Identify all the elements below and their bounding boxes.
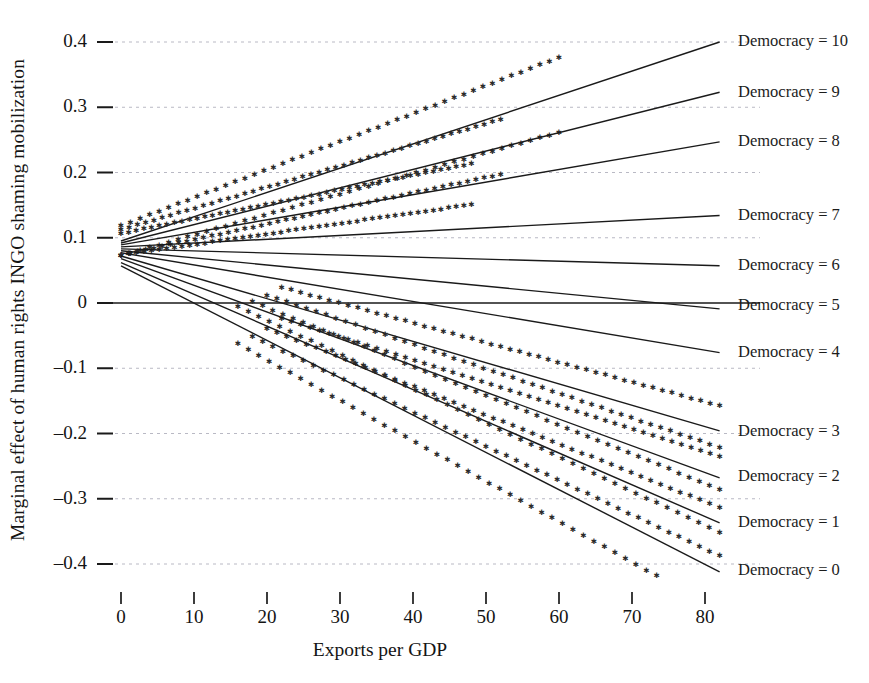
ci-star-marker: ✱ — [615, 504, 621, 513]
ci-star-marker: ✱ — [497, 115, 503, 124]
ci-star-marker: ✱ — [360, 361, 366, 370]
ci-star-marker: ✱ — [645, 456, 651, 465]
ci-star-marker: ✱ — [488, 380, 494, 389]
ci-star-marker: ✱ — [633, 489, 639, 498]
ci-star-marker: ✱ — [555, 358, 561, 367]
x-tick-label: 60 — [539, 606, 579, 628]
ci-star-marker: ✱ — [555, 401, 561, 410]
ci-star-marker: ✱ — [264, 291, 270, 300]
x-tick-label: 0 — [101, 606, 141, 628]
ci-star-marker: ✱ — [499, 144, 505, 153]
ci-star-marker: ✱ — [371, 366, 377, 375]
ci-star-marker: ✱ — [337, 137, 343, 146]
ci-star-marker: ✱ — [326, 296, 332, 305]
ci-star-marker: ✱ — [270, 163, 276, 172]
ci-star-marker: ✱ — [349, 158, 355, 167]
ci-star-marker: ✱ — [697, 446, 703, 455]
ci-star-marker: ✱ — [643, 494, 649, 503]
ci-star-marker: ✱ — [697, 495, 703, 504]
ci-star-marker: ✱ — [331, 330, 337, 339]
x-tick-label: 30 — [320, 606, 360, 628]
ci-star-marker: ✱ — [382, 330, 388, 339]
ci-star-marker: ✱ — [608, 460, 614, 469]
series-end-label: Democracy = 0 — [738, 560, 840, 580]
ci-star-marker: ✱ — [332, 205, 338, 214]
ci-star-marker: ✱ — [287, 327, 293, 336]
ci-star-marker: ✱ — [473, 437, 479, 446]
ci-star-marker: ✱ — [564, 424, 570, 433]
ci-star-marker: ✱ — [574, 485, 580, 494]
ci-star-marker: ✱ — [493, 395, 499, 404]
ci-star-marker: ✱ — [483, 391, 489, 400]
ci-star-marker: ✱ — [320, 326, 326, 335]
ci-star-marker: ✱ — [175, 199, 181, 208]
ci-star-marker: ✱ — [217, 196, 223, 205]
ci-star-marker: ✱ — [194, 240, 200, 249]
ci-star-marker: ✱ — [503, 399, 509, 408]
ci-star-marker: ✱ — [707, 499, 713, 508]
ci-star-marker: ✱ — [669, 388, 675, 397]
ci-star-marker: ✱ — [432, 371, 438, 380]
ci-star-marker: ✱ — [415, 208, 421, 217]
ci-star-marker: ✱ — [413, 438, 419, 447]
ci-star-marker: ✱ — [202, 212, 208, 221]
ci-star-marker: ✱ — [242, 189, 248, 198]
ci-star-marker: ✱ — [278, 197, 284, 206]
ci-star-marker: ✱ — [434, 395, 440, 404]
ci-star-marker: ✱ — [659, 434, 665, 443]
ci-star-marker: ✱ — [473, 387, 479, 396]
ci-star-marker: ✱ — [470, 360, 476, 369]
ci-star-marker: ✱ — [569, 393, 575, 402]
ci-star-marker: ✱ — [346, 183, 352, 192]
ci-star-marker: ✱ — [400, 173, 406, 182]
ci-star-marker: ✱ — [308, 380, 314, 389]
x-tick-label: 10 — [174, 606, 214, 628]
ci-star-marker: ✱ — [640, 381, 646, 390]
ci-star-marker: ✱ — [232, 206, 238, 215]
ci-star-marker: ✱ — [468, 159, 474, 168]
ci-star-marker: ✱ — [707, 399, 713, 408]
ci-star-marker: ✱ — [293, 194, 299, 203]
ci-star-marker: ✱ — [381, 421, 387, 430]
ci-star-marker: ✱ — [339, 185, 345, 194]
ci-star-marker: ✱ — [549, 449, 555, 458]
ci-star-marker: ✱ — [716, 551, 722, 560]
ci-star-marker: ✱ — [324, 207, 330, 216]
ci-star-marker: ✱ — [256, 351, 262, 360]
ci-star-marker: ✱ — [486, 479, 492, 488]
ci-star-marker: ✱ — [324, 165, 330, 174]
ci-star-marker: ✱ — [392, 376, 398, 385]
x-tick-label: 40 — [393, 606, 433, 628]
ci-star-marker: ✱ — [593, 368, 599, 377]
ci-star-marker: ✱ — [625, 448, 631, 457]
ci-star-marker: ✱ — [299, 200, 305, 209]
ci-star-marker: ✱ — [284, 297, 290, 306]
ci-star-marker: ✱ — [413, 108, 419, 117]
ci-star-marker: ✱ — [431, 362, 437, 371]
ci-star-marker: ✱ — [412, 319, 418, 328]
ci-star-marker: ✱ — [554, 475, 560, 484]
x-ticks-group — [121, 592, 705, 604]
ci-star-marker: ✱ — [434, 450, 440, 459]
ci-star-marker: ✱ — [539, 383, 545, 392]
ci-star-marker: ✱ — [618, 464, 624, 473]
ci-star-marker: ✱ — [233, 192, 239, 201]
ci-star-marker: ✱ — [716, 503, 722, 512]
ci-star-marker: ✱ — [213, 185, 219, 194]
series-line — [121, 259, 720, 478]
ci-star-marker: ✱ — [593, 413, 599, 422]
ci-star-marker: ✱ — [372, 327, 378, 336]
ci-star-marker: ✱ — [224, 235, 230, 244]
ci-star-marker: ✱ — [421, 344, 427, 353]
ci-star-marker: ✱ — [341, 203, 347, 212]
ci-star-marker: ✱ — [526, 350, 532, 359]
ci-star-marker: ✱ — [707, 449, 713, 458]
ci-star-marker: ✱ — [293, 225, 299, 234]
ci-star-marker: ✱ — [431, 324, 437, 333]
ci-star-marker: ✱ — [499, 75, 505, 84]
ci-star-marker: ✱ — [490, 367, 496, 376]
ci-star-marker: ✱ — [392, 334, 398, 343]
series-end-label: Democracy = 4 — [738, 342, 840, 362]
ci-star-marker: ✱ — [324, 221, 330, 230]
ci-star-marker: ✱ — [654, 498, 660, 507]
